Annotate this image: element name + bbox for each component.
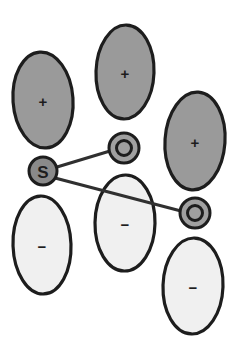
lobe-bottom-middle-sign: − [121,216,130,233]
lobe-top-middle-sign: + [121,65,130,82]
lobe-bottom-middle: − [94,174,156,271]
atom-oxygen-upper-shape [109,133,139,163]
atom-oxygen-lower [180,198,210,228]
lobe-top-middle: + [94,24,155,120]
lobe-bottom-left-sign: − [38,238,47,255]
lobe-bottom-right-sign: − [189,279,198,296]
atom-sulfur-label: S [37,163,48,182]
atom-oxygen-lower-shape [180,198,210,228]
lobe-top-left-sign: + [39,93,48,110]
atom-oxygen-upper [109,133,139,163]
diagram-svg: + + + − − − [0,0,241,347]
lobe-top-right-sign: + [191,134,200,151]
atom-sulfur: S [29,157,57,185]
molecular-orbital-diagram: + + + − − − [0,0,241,347]
